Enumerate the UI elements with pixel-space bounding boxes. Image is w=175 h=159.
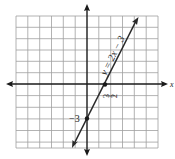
y-axis [84, 4, 90, 156]
y-intercept-label: −3 [69, 113, 80, 124]
x-intercept-point [103, 82, 107, 86]
x-intercept-label: 3 2 [102, 94, 119, 98]
x-axis-label: x [169, 80, 174, 89]
x-intercept-denominator: 2 [110, 94, 119, 98]
coordinate-plane: x −3 3 2 y = 2x − 3 [0, 0, 175, 159]
y-intercept-point [85, 116, 89, 120]
